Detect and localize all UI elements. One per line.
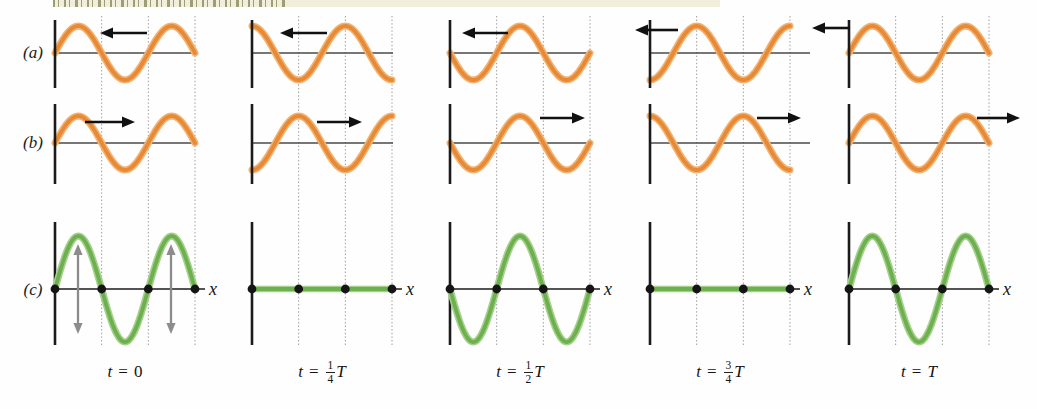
- direction-arrow-left-head: [812, 22, 825, 33]
- time-label: t=0: [45, 354, 205, 390]
- row-label-c: (c): [16, 281, 50, 298]
- node-dot: [97, 285, 106, 294]
- equals-sign: =: [707, 362, 717, 382]
- direction-arrow-right-head: [572, 112, 585, 123]
- node-dot: [692, 285, 701, 294]
- node-dot: [248, 285, 257, 294]
- node-dot: [985, 285, 994, 294]
- fraction: 34: [724, 359, 734, 385]
- time-variable: t: [696, 362, 701, 382]
- fraction: 12: [524, 359, 534, 385]
- node-dot: [646, 285, 655, 294]
- node-dot: [786, 285, 795, 294]
- node-dot: [191, 285, 200, 294]
- direction-arrow-right-head: [349, 116, 362, 127]
- direction-arrow-right-head: [1007, 112, 1020, 123]
- direction-arrow-left-head: [100, 27, 113, 38]
- time-variable: t: [496, 362, 501, 382]
- node-dot: [845, 285, 854, 294]
- fraction-numerator: 1: [524, 359, 534, 372]
- row-label-a: (a): [16, 44, 50, 61]
- time-value: 0: [134, 362, 143, 382]
- node-dot: [294, 285, 303, 294]
- oscillation-arrow-up-head: [166, 244, 175, 255]
- node-dot: [739, 285, 748, 294]
- time-variable: t: [108, 362, 113, 382]
- row-label-b: (b): [16, 134, 50, 151]
- node-dot: [891, 285, 900, 294]
- time-variable: t: [901, 362, 906, 382]
- direction-arrow-right-head: [122, 116, 135, 127]
- node-dot: [938, 285, 947, 294]
- node-dot: [446, 285, 455, 294]
- x-axis-label: x: [405, 279, 414, 299]
- x-axis-label: x: [603, 279, 612, 299]
- fraction-denominator: 2: [524, 372, 534, 386]
- direction-arrow-left-head: [280, 27, 293, 38]
- direction-arrow-left-head: [462, 27, 475, 38]
- fraction-numerator: 3: [724, 359, 734, 372]
- equals-sign: =: [507, 362, 517, 382]
- node-dot: [586, 285, 595, 294]
- time-label: t=T: [839, 354, 999, 390]
- x-axis-label: x: [208, 279, 217, 299]
- node-dot: [492, 285, 501, 294]
- fraction-numerator: 1: [326, 359, 336, 372]
- time-variable: t: [298, 362, 303, 382]
- node-dot: [388, 285, 397, 294]
- x-axis-label: x: [1002, 279, 1011, 299]
- equals-sign: =: [118, 362, 128, 382]
- direction-arrow-left-head: [635, 24, 648, 35]
- time-value: T: [534, 362, 543, 382]
- oscillation-arrow-down-head: [166, 323, 175, 334]
- time-value: T: [734, 362, 743, 382]
- time-label: t=12T: [440, 354, 600, 390]
- fraction-denominator: 4: [724, 372, 734, 386]
- time-label: t=14T: [242, 354, 402, 390]
- oscillation-arrow-up-head: [73, 244, 82, 255]
- node-dot: [51, 285, 60, 294]
- fraction-denominator: 4: [326, 372, 336, 386]
- node-dot: [539, 285, 548, 294]
- node-dot: [341, 285, 350, 294]
- wave-diagram: xxxxx: [0, 0, 1037, 409]
- time-label: t=34T: [640, 354, 800, 390]
- equals-sign: =: [912, 362, 922, 382]
- direction-arrow-right-head: [788, 112, 801, 123]
- textbook-wave-figure: xxxxx (a) (b) (c) t=0t=14Tt=12Tt=34Tt=T: [0, 0, 1037, 409]
- time-value: T: [336, 362, 345, 382]
- node-dot: [144, 285, 153, 294]
- equals-sign: =: [309, 362, 319, 382]
- time-value: T: [927, 362, 936, 382]
- oscillation-arrow-down-head: [73, 323, 82, 334]
- x-axis-label: x: [803, 279, 812, 299]
- fraction: 14: [326, 359, 336, 385]
